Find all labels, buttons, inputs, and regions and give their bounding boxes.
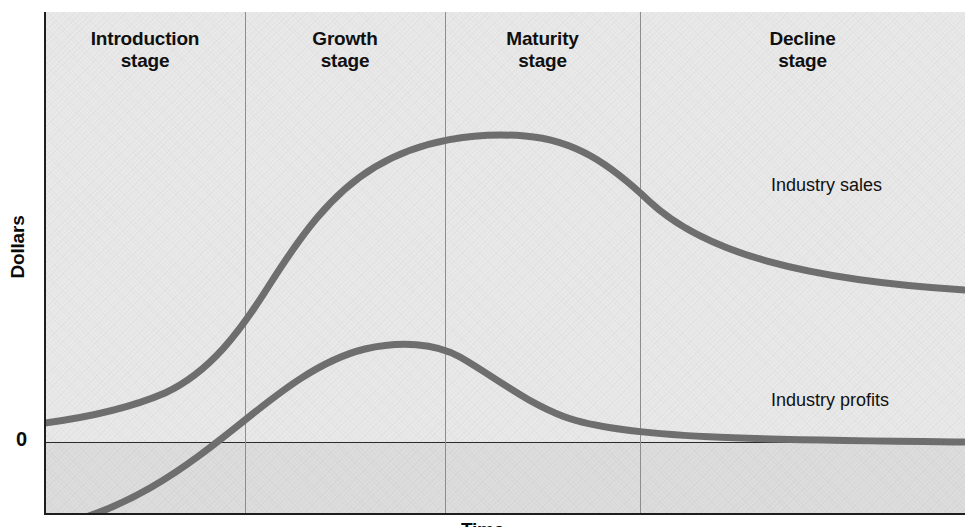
stage-label-introduction: Introduction stage [45, 28, 245, 72]
y-axis-zero-tick-label: 0 [16, 428, 27, 451]
product-life-cycle-figure: Dollars 0 Introduction stage Growth stag… [0, 0, 965, 527]
industry-profits-curve [45, 344, 965, 515]
stage-label-introduction-line1: Introduction [45, 28, 245, 50]
stage-label-growth-line2: stage [245, 50, 445, 72]
stage-label-decline-line2: stage [640, 50, 965, 72]
stage-label-maturity-line2: stage [445, 50, 640, 72]
curves-svg [45, 12, 965, 515]
y-axis-line [44, 12, 46, 515]
stage-label-decline: Decline stage [640, 28, 965, 72]
x-axis-title: Time [0, 519, 965, 527]
stage-label-growth: Growth stage [245, 28, 445, 72]
stage-label-introduction-line2: stage [45, 50, 245, 72]
x-axis-line [44, 513, 965, 515]
stage-label-maturity: Maturity stage [445, 28, 640, 72]
stage-label-maturity-line1: Maturity [445, 28, 640, 50]
stage-label-growth-line1: Growth [245, 28, 445, 50]
industry-sales-label: Industry sales [771, 175, 882, 196]
plot-area: Introduction stage Growth stage Maturity… [45, 12, 965, 515]
stage-label-decline-line1: Decline [640, 28, 965, 50]
industry-profits-label: Industry profits [771, 390, 889, 411]
y-axis-title: Dollars [7, 197, 29, 297]
